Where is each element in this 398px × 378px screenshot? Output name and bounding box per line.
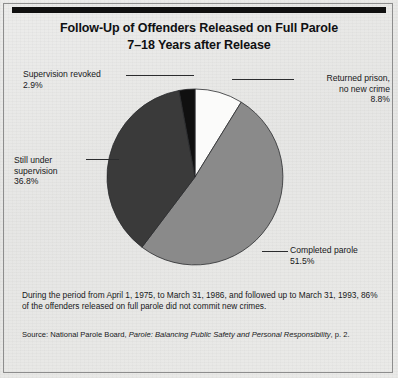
leader-line-completed-parole: [262, 251, 288, 252]
leader-line-returned-prison: [232, 79, 294, 80]
figure-panel: Follow-Up of Offenders Released on Full …: [0, 0, 398, 378]
source-prefix: Source: National Parole Board,: [22, 330, 129, 339]
figure-note: During the period from April 1, 1975, to…: [22, 290, 378, 312]
slice-label-returned-prison: Returned prison, no new crime 8.8%: [296, 73, 390, 105]
slice-label-completed-parole: Completed parole 51.5%: [290, 245, 390, 266]
figure-source: Source: National Parole Board, Parole: B…: [22, 330, 378, 340]
source-suffix: , p. 2.: [331, 330, 350, 339]
pie-slice-group: [107, 89, 283, 265]
slice-label-still-under-supervision: Still under supervision 36.8%: [14, 155, 124, 187]
pie-chart: [0, 0, 398, 378]
pie-chart-svg: [0, 0, 398, 378]
source-title: Parole: Balancing Public Safety and Pers…: [129, 330, 331, 339]
slice-label-supervision-revoked: Supervision revoked 2.9%: [23, 69, 153, 90]
